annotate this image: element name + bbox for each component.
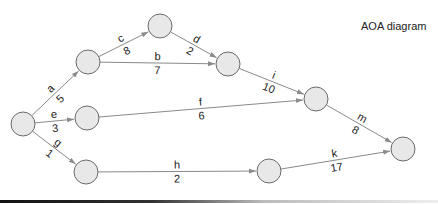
event-node-n1	[11, 112, 35, 136]
activity-name-k: k	[331, 147, 339, 160]
event-node-n6	[304, 87, 328, 111]
activity-duration-c: 8	[121, 44, 132, 57]
diagram-title: AOA diagram	[361, 20, 426, 32]
activity-duration-h: 2	[174, 172, 180, 184]
activity-duration-m: 8	[350, 123, 361, 136]
activity-arrow-g	[33, 131, 76, 164]
event-node-n5	[75, 106, 99, 130]
activity-duration-k: 17	[330, 160, 344, 174]
event-node-n7	[74, 160, 98, 184]
activity-name-e: e	[50, 108, 57, 121]
activity-duration-g: 1	[44, 147, 56, 160]
activity-name-c: c	[115, 31, 126, 44]
activity-duration-d: 2	[185, 44, 196, 57]
event-node-n8	[257, 159, 281, 183]
activity-name-f: f	[198, 95, 203, 107]
event-node-n4	[216, 52, 240, 76]
activity-duration-b: 7	[154, 64, 160, 76]
event-node-n2	[76, 50, 100, 74]
bottom-divider	[0, 200, 438, 203]
activity-name-b: b	[154, 50, 160, 62]
activity-name-h: h	[174, 158, 180, 170]
activity-name-d: d	[191, 32, 202, 45]
activity-name-i: i	[271, 69, 278, 81]
event-nodes	[11, 14, 415, 184]
activity-duration-f: 6	[198, 109, 205, 121]
activity-name-g: g	[52, 136, 64, 149]
activity-arrow-m	[326, 105, 391, 143]
activity-duration-a: 5	[54, 92, 67, 105]
activity-duration-e: 3	[52, 122, 59, 135]
event-node-n3	[148, 14, 172, 38]
activity-arrow-d	[170, 32, 216, 58]
event-node-n9	[391, 137, 415, 161]
